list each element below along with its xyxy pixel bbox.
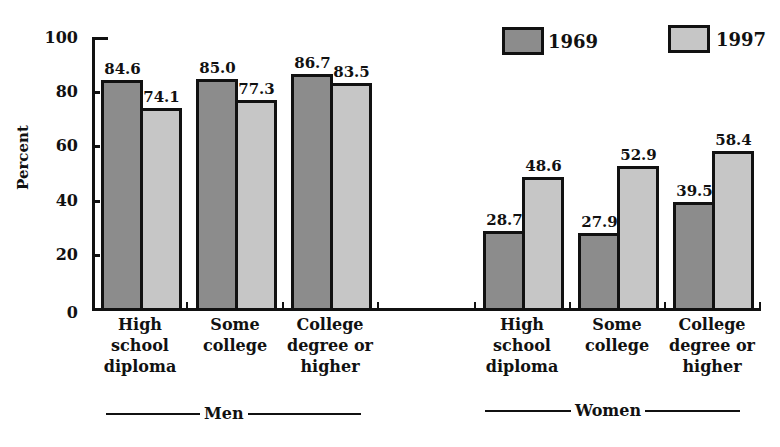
category-label-line: degree or bbox=[280, 335, 380, 356]
x-tick-mark bbox=[186, 302, 188, 309]
bar-women-1969 bbox=[673, 202, 715, 311]
group-label-text: Women bbox=[571, 401, 645, 420]
group-rule-left bbox=[485, 410, 571, 412]
legend-label-1997: 1997 bbox=[716, 29, 766, 50]
category-label: Somecollege bbox=[185, 314, 285, 356]
bar-men-1969 bbox=[101, 80, 143, 311]
y-tick-mark bbox=[92, 145, 100, 148]
category-label-line: High bbox=[90, 314, 190, 335]
category-label-line: college bbox=[567, 335, 667, 356]
group-rule-right bbox=[248, 413, 361, 415]
category-label-line: High bbox=[472, 314, 572, 335]
bar-value-label: 77.3 bbox=[227, 80, 287, 98]
group-label-text: Men bbox=[200, 404, 248, 423]
y-tick-mark bbox=[92, 91, 100, 94]
category-label-line: College bbox=[662, 314, 762, 335]
bar-value-label: 84.6 bbox=[93, 60, 153, 78]
y-tick-mark bbox=[92, 200, 100, 203]
category-label-line: college bbox=[185, 335, 285, 356]
bar-value-label: 83.5 bbox=[322, 63, 382, 81]
bar-value-label: 85.0 bbox=[188, 59, 248, 77]
category-label-line: diploma bbox=[472, 356, 572, 377]
category-label-line: school bbox=[90, 335, 190, 356]
category-label-line: Some bbox=[185, 314, 285, 335]
category-label: Collegedegree orhigher bbox=[662, 314, 762, 377]
group-rule-right bbox=[645, 410, 740, 412]
y-tick-label: 60 bbox=[38, 136, 78, 155]
legend-swatch-1997 bbox=[668, 25, 710, 53]
y-tick-label: 0 bbox=[38, 303, 78, 322]
bar-value-label: 52.9 bbox=[609, 146, 669, 164]
bar-men-1969 bbox=[196, 79, 238, 311]
bar-value-label: 74.1 bbox=[132, 88, 192, 106]
group-label-men: Men bbox=[106, 404, 361, 423]
x-axis-baseline bbox=[92, 308, 761, 311]
bar-men-1969 bbox=[291, 74, 333, 311]
x-tick-mark bbox=[569, 302, 571, 309]
bar-men-1997 bbox=[330, 83, 372, 311]
category-label: Collegedegree orhigher bbox=[280, 314, 380, 377]
category-label-line: higher bbox=[280, 356, 380, 377]
y-tick-label: 40 bbox=[38, 191, 78, 210]
x-tick-mark bbox=[759, 302, 761, 309]
y-tick-label: 20 bbox=[38, 245, 78, 264]
bar-men-1997 bbox=[140, 108, 182, 311]
category-label-line: degree or bbox=[662, 335, 762, 356]
category-label-line: higher bbox=[662, 356, 762, 377]
y-tick-mark bbox=[92, 254, 100, 257]
legend-swatch-1969 bbox=[502, 27, 544, 55]
x-tick-mark bbox=[474, 302, 476, 309]
category-label-line: school bbox=[472, 335, 572, 356]
category-label-line: College bbox=[280, 314, 380, 335]
x-tick-mark bbox=[377, 302, 379, 309]
bar-value-label: 58.4 bbox=[704, 131, 764, 149]
y-axis-label: Percent bbox=[14, 125, 32, 190]
bar-women-1997 bbox=[617, 166, 659, 311]
group-label-women: Women bbox=[485, 401, 740, 420]
y-tick-label: 80 bbox=[38, 82, 78, 101]
x-tick-mark bbox=[664, 302, 666, 309]
bar-women-1997 bbox=[712, 151, 754, 311]
category-label-line: Some bbox=[567, 314, 667, 335]
bar-men-1997 bbox=[235, 100, 277, 311]
bar-women-1969 bbox=[483, 231, 525, 311]
bar-women-1969 bbox=[578, 233, 620, 311]
category-label: Highschooldiploma bbox=[472, 314, 572, 377]
bar-women-1997 bbox=[522, 177, 564, 311]
y-tick-label: 100 bbox=[38, 28, 78, 47]
legend-label-1969: 1969 bbox=[548, 31, 598, 52]
group-rule-left bbox=[106, 413, 200, 415]
y-axis-top-cap bbox=[92, 37, 108, 40]
category-label-line: diploma bbox=[90, 356, 190, 377]
category-label: Highschooldiploma bbox=[90, 314, 190, 377]
category-label: Somecollege bbox=[567, 314, 667, 356]
x-tick-mark bbox=[282, 302, 284, 309]
bar-value-label: 48.6 bbox=[514, 157, 574, 175]
y-axis-line bbox=[92, 37, 95, 311]
